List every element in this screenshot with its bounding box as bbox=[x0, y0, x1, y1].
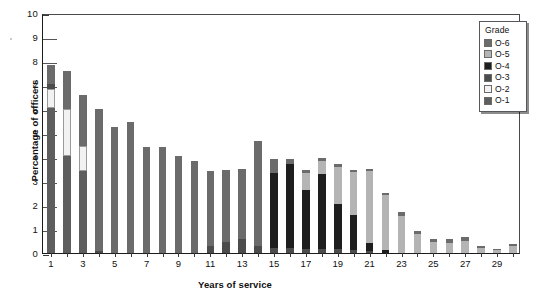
legend-title: Grade bbox=[485, 25, 522, 35]
legend: Grade O-6O-5O-4O-3O-2O-1 bbox=[479, 21, 527, 112]
x-tick-label: 25 bbox=[421, 258, 445, 269]
bar-segment-o-6 bbox=[222, 170, 230, 242]
bar-segment-o-6 bbox=[286, 159, 294, 164]
bar bbox=[207, 171, 215, 253]
legend-item-label: O-5 bbox=[495, 50, 510, 59]
x-tick-label: 15 bbox=[262, 258, 286, 269]
x-tick-mark bbox=[513, 253, 514, 257]
x-tick-mark bbox=[51, 253, 52, 257]
x-axis-title: Years of service bbox=[0, 279, 470, 290]
x-tick-label: 29 bbox=[485, 258, 509, 269]
x-tick-mark bbox=[322, 253, 323, 257]
legend-item-o-2: O-2 bbox=[484, 83, 522, 95]
x-tick-label: 9 bbox=[166, 258, 190, 269]
legend-item-label: O-6 bbox=[495, 39, 510, 48]
bar-segment-o-3 bbox=[366, 251, 374, 253]
bar-segment-o-5 bbox=[350, 172, 358, 215]
legend-swatch-icon bbox=[484, 97, 492, 105]
bar-segment-o-5 bbox=[430, 242, 438, 253]
bar-segment-o-4 bbox=[382, 250, 390, 253]
bar-segment-o-3 bbox=[350, 250, 358, 253]
x-tick-mark bbox=[481, 253, 482, 257]
x-tick-mark bbox=[178, 253, 179, 257]
x-tick-mark bbox=[194, 253, 195, 257]
bar-segment-o-6 bbox=[79, 95, 87, 147]
bar bbox=[493, 249, 501, 253]
bar-segment-o-6 bbox=[47, 65, 55, 85]
bar-segment-o-6 bbox=[446, 239, 454, 243]
x-tick-mark bbox=[290, 253, 291, 257]
bar-segment-o-6 bbox=[382, 193, 390, 195]
bar bbox=[47, 65, 55, 253]
bar bbox=[254, 141, 262, 253]
bar-segment-o-3 bbox=[254, 246, 262, 253]
chart-figure: Percentage of officers Years of service … bbox=[0, 0, 538, 302]
bar-segment-o-5 bbox=[446, 243, 454, 253]
bar bbox=[143, 147, 151, 253]
x-tick-label: 21 bbox=[358, 258, 382, 269]
bar-segment-o-6 bbox=[238, 169, 246, 239]
bar-segment-o-6 bbox=[207, 171, 215, 245]
x-tick-mark bbox=[433, 253, 434, 257]
x-tick-mark bbox=[226, 253, 227, 257]
stray-speck bbox=[10, 38, 12, 40]
y-tick-label: 9 bbox=[14, 32, 38, 43]
bar bbox=[191, 161, 199, 253]
bar bbox=[414, 231, 422, 253]
x-tick-mark bbox=[417, 253, 418, 257]
bar-segment-o-6 bbox=[175, 156, 183, 253]
x-tick-mark bbox=[163, 253, 164, 257]
x-tick-mark bbox=[99, 253, 100, 257]
x-tick-mark bbox=[131, 253, 132, 257]
bar-segment-o-6 bbox=[430, 239, 438, 243]
bar bbox=[366, 169, 374, 253]
bar bbox=[509, 244, 517, 253]
bar-segment-o-6 bbox=[143, 147, 151, 253]
bar bbox=[477, 246, 485, 253]
x-tick-mark bbox=[465, 253, 466, 257]
x-tick-label: 17 bbox=[294, 258, 318, 269]
x-tick-label: 7 bbox=[135, 258, 159, 269]
bar-segment-o-5 bbox=[398, 216, 406, 253]
bar bbox=[222, 170, 230, 253]
bar-segment-o-5 bbox=[318, 161, 326, 174]
bar-segment-o-6 bbox=[334, 164, 342, 166]
bar-segment-o-6 bbox=[302, 170, 310, 174]
bar-segment-o-6 bbox=[254, 141, 262, 245]
x-tick-label: 1 bbox=[39, 258, 63, 269]
legend-swatch-icon bbox=[484, 74, 492, 82]
x-tick-mark bbox=[258, 253, 259, 257]
bar bbox=[79, 95, 87, 253]
x-tick-label: 3 bbox=[71, 258, 95, 269]
bar-segment-o-1 bbox=[63, 156, 71, 253]
bar-segment-o-5 bbox=[414, 234, 422, 253]
legend-item-label: O-3 bbox=[495, 73, 510, 82]
y-tick-mark bbox=[43, 15, 49, 16]
y-tick-label: 5 bbox=[14, 128, 38, 139]
bar bbox=[159, 147, 167, 253]
bar-segment-o-6 bbox=[159, 147, 167, 253]
y-tick-label: 1 bbox=[14, 224, 38, 235]
bar-segment-o-6 bbox=[493, 249, 501, 250]
x-tick-mark bbox=[115, 253, 116, 257]
bar-segment-o-6 bbox=[270, 159, 278, 173]
bar-segment-o-6 bbox=[398, 212, 406, 216]
bar-segment-o-6 bbox=[63, 71, 71, 109]
bar-segment-o-6 bbox=[509, 244, 517, 246]
bar bbox=[398, 212, 406, 253]
bar-segment-o-5 bbox=[302, 173, 310, 190]
bar bbox=[127, 122, 135, 253]
bar-segment-o-3 bbox=[270, 248, 278, 253]
x-tick-mark bbox=[370, 253, 371, 257]
x-tick-label: 27 bbox=[453, 258, 477, 269]
x-tick-mark bbox=[338, 253, 339, 257]
legend-swatch-icon bbox=[484, 62, 492, 70]
bar-segment-o-3 bbox=[95, 251, 103, 253]
bar-segment-o-4 bbox=[318, 174, 326, 250]
bar-segment-o-3 bbox=[207, 246, 215, 253]
bar bbox=[318, 158, 326, 253]
bar-segment-o-4 bbox=[302, 190, 310, 249]
bar-segment-o-6 bbox=[111, 127, 119, 253]
x-tick-mark bbox=[147, 253, 148, 257]
bar-segment-o-6 bbox=[366, 169, 374, 171]
